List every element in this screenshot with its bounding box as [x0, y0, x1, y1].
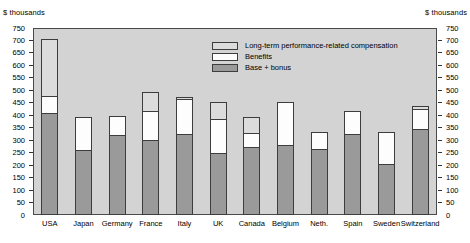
y-tick-mark-right-650 — [438, 52, 442, 53]
x-axis-label-france: France — [139, 219, 162, 229]
y-tick-label-right-250: 250 — [446, 148, 459, 157]
y-tick-mark-right-100 — [438, 190, 442, 191]
y-tick-mark-left-100 — [29, 190, 33, 191]
y-tick-label-left-250: 250 — [12, 148, 25, 157]
y-tick-label-left-100: 100 — [12, 186, 25, 195]
segment-benefits — [412, 109, 429, 130]
legend-label-benefits: Benefits — [245, 52, 272, 61]
segment-long-term-compensation — [412, 106, 429, 111]
y-tick-mark-right-500 — [438, 90, 442, 91]
legend-item-benefits: Benefits — [212, 52, 398, 61]
bar-switzerland — [412, 28, 429, 215]
x-axis-label-neth: Neth. — [310, 219, 328, 229]
segment-benefits — [210, 119, 227, 154]
segment-long-term-compensation — [41, 39, 58, 96]
segment-long-term-compensation — [243, 117, 260, 134]
bar-germany — [109, 28, 126, 215]
y-tick-label-left-550: 550 — [12, 73, 25, 82]
y-tick-label-left-200: 200 — [12, 161, 25, 170]
x-axis-label-usa: USA — [42, 219, 57, 229]
y-tick-mark-right-550 — [438, 77, 442, 78]
y-tick-label-right-500: 500 — [446, 86, 459, 95]
y-tick-mark-left-200 — [29, 165, 33, 166]
segment-benefits — [109, 116, 126, 136]
segment-benefits — [344, 111, 361, 136]
y-tick-mark-left-350 — [29, 127, 33, 128]
segment-benefits — [243, 133, 260, 148]
segment-base-bonus — [41, 113, 58, 215]
segment-base-bonus — [176, 134, 193, 215]
y-tick-mark-left-300 — [29, 140, 33, 141]
segment-base-bonus — [210, 153, 227, 215]
x-axis-label-sweden: Sweden — [373, 219, 400, 229]
y-tick-label-left-150: 150 — [12, 173, 25, 182]
x-axis-label-italy: Italy — [178, 219, 192, 229]
y-tick-label-right-650: 650 — [446, 48, 459, 57]
y-tick-mark-left-550 — [29, 77, 33, 78]
segment-benefits — [311, 132, 328, 149]
segment-base-bonus — [142, 140, 159, 215]
segment-long-term-compensation — [142, 92, 159, 112]
y-tick-label-left-450: 450 — [12, 98, 25, 107]
y-axis-right-ticks: 0501001502002503003504004505005506006507… — [438, 28, 470, 215]
y-tick-label-right-350: 350 — [446, 123, 459, 132]
y-tick-mark-left-700 — [29, 40, 33, 41]
y-tick-label-right-100: 100 — [446, 186, 459, 195]
x-axis-label-belgium: Belgium — [272, 219, 299, 229]
y-tick-mark-left-400 — [29, 115, 33, 116]
y-tick-mark-left-600 — [29, 65, 33, 66]
segment-base-bonus — [311, 149, 328, 215]
legend-swatch-lti — [212, 42, 238, 50]
y-tick-mark-right-150 — [438, 177, 442, 178]
segment-base-bonus — [412, 129, 429, 215]
x-axis-label-uk: UK — [213, 219, 223, 229]
legend-label-lti: Long-term performance-related compensati… — [245, 41, 398, 50]
segment-base-bonus — [243, 147, 260, 215]
segment-base-bonus — [109, 135, 126, 215]
x-axis-label-germany: Germany — [102, 219, 133, 229]
y-tick-mark-right-450 — [438, 102, 442, 103]
y-tick-mark-left-250 — [29, 152, 33, 153]
segment-benefits — [75, 117, 92, 151]
y-tick-label-left-300: 300 — [12, 136, 25, 145]
legend-swatch-benefits — [212, 53, 238, 61]
legend-item-base: Base + bonus — [212, 63, 398, 72]
y-tick-label-right-150: 150 — [446, 173, 459, 182]
segment-benefits — [176, 99, 193, 135]
segment-long-term-compensation — [210, 102, 227, 120]
y-tick-label-left-750: 750 — [12, 24, 25, 33]
bar-japan — [75, 28, 92, 215]
legend-swatch-base — [212, 64, 238, 72]
y-tick-label-right-50: 50 — [446, 198, 454, 207]
x-axis-label-japan: Japan — [73, 219, 93, 229]
segment-base-bonus — [378, 164, 395, 215]
compensation-bar-chart: $ thousands $ thousands 0501001502002503… — [0, 0, 470, 243]
y-tick-mark-left-50 — [29, 202, 33, 203]
chart-legend: Long-term performance-related compensati… — [212, 41, 398, 72]
y-tick-mark-right-50 — [438, 202, 442, 203]
y-tick-label-right-700: 700 — [446, 36, 459, 45]
legend-item-lti: Long-term performance-related compensati… — [212, 41, 398, 50]
y-tick-label-left-50: 50 — [17, 198, 25, 207]
y-tick-label-left-500: 500 — [12, 86, 25, 95]
legend-label-base: Base + bonus — [245, 63, 291, 72]
left-axis-unit-caption: $ thousands — [3, 8, 45, 17]
y-tick-label-left-350: 350 — [12, 123, 25, 132]
right-axis-unit-caption: $ thousands — [425, 8, 467, 17]
segment-base-bonus — [344, 134, 361, 215]
y-tick-mark-right-600 — [438, 65, 442, 66]
y-tick-mark-right-400 — [438, 115, 442, 116]
y-tick-label-left-700: 700 — [12, 36, 25, 45]
y-tick-label-right-750: 750 — [446, 24, 459, 33]
y-tick-label-left-650: 650 — [12, 48, 25, 57]
x-axis-label-switzerland: Switzerland — [401, 219, 440, 229]
y-tick-label-right-550: 550 — [446, 73, 459, 82]
bar-usa — [41, 28, 58, 215]
y-tick-label-left-0: 0 — [21, 211, 25, 220]
segment-base-bonus — [75, 150, 92, 215]
segment-benefits — [378, 132, 395, 165]
y-tick-mark-right-300 — [438, 140, 442, 141]
y-tick-label-right-300: 300 — [446, 136, 459, 145]
bar-france — [142, 28, 159, 215]
y-tick-label-right-0: 0 — [446, 211, 450, 220]
